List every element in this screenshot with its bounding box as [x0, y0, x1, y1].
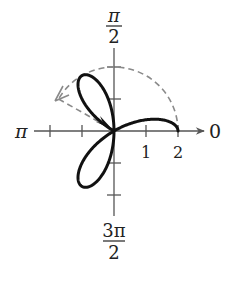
- tick-label-1: 1: [141, 143, 151, 162]
- label-top-numerator: π: [107, 5, 121, 26]
- label-bottom-numerator: 3π: [102, 220, 125, 241]
- label-bottom-denominator: 2: [108, 242, 119, 263]
- label-right-zero: 0: [209, 120, 221, 142]
- tick-label-2: 2: [173, 143, 183, 162]
- polar-graph-svg: 0 π π 2 3π 2 1 2: [0, 0, 232, 282]
- axis-labels: 0 π π 2 3π 2 1 2: [14, 5, 221, 263]
- label-left-pi: π: [14, 120, 28, 142]
- label-top-denominator: 2: [108, 26, 119, 47]
- polar-graph-figure: 0 π π 2 3π 2 1 2: [0, 0, 232, 282]
